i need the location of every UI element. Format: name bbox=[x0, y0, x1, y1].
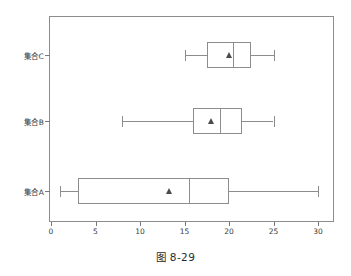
mean-marker-triangle bbox=[208, 118, 214, 124]
box-iqr bbox=[78, 178, 229, 204]
category-axis-label: 集合C bbox=[14, 50, 44, 61]
figure-container: 051015202530集合C集合B集合A 图 8-29 bbox=[0, 0, 351, 276]
x-axis-tick bbox=[51, 222, 52, 226]
category-axis-label: 集合A bbox=[14, 186, 44, 197]
mean-marker-triangle bbox=[166, 188, 172, 194]
whisker-high-cap bbox=[318, 186, 319, 197]
whisker-low-line bbox=[60, 191, 78, 192]
x-axis-tick-label: 20 bbox=[224, 227, 234, 236]
whisker-high-line bbox=[251, 55, 273, 56]
x-axis-tick-label: 0 bbox=[49, 227, 54, 236]
whisker-high-line bbox=[229, 191, 318, 192]
whisker-high-cap bbox=[274, 50, 275, 61]
whisker-low-line bbox=[185, 55, 207, 56]
median-line bbox=[233, 42, 234, 68]
x-axis-tick bbox=[96, 222, 97, 226]
category-axis-tick bbox=[45, 121, 50, 122]
box-iqr bbox=[193, 108, 242, 134]
category-axis-tick bbox=[45, 191, 50, 192]
median-line bbox=[189, 178, 190, 204]
figure-caption: 图 8-29 bbox=[0, 249, 351, 264]
mean-marker-triangle bbox=[226, 52, 232, 58]
x-axis-tick bbox=[140, 222, 141, 226]
whisker-low-cap bbox=[60, 186, 61, 197]
x-axis-tick-label: 15 bbox=[180, 227, 190, 236]
x-axis-tick-label: 5 bbox=[93, 227, 98, 236]
x-axis-tick bbox=[274, 222, 275, 226]
whisker-low-line bbox=[122, 121, 193, 122]
x-axis-tick-label: 30 bbox=[313, 227, 323, 236]
median-line bbox=[220, 108, 221, 134]
category-axis-label: 集合B bbox=[14, 116, 44, 127]
whisker-low-cap bbox=[122, 116, 123, 127]
whisker-low-cap bbox=[185, 50, 186, 61]
x-axis-tick bbox=[318, 222, 319, 226]
x-axis-tick-label: 10 bbox=[135, 227, 145, 236]
x-axis-tick-label: 25 bbox=[269, 227, 279, 236]
whisker-high-line bbox=[242, 121, 273, 122]
x-axis-tick bbox=[229, 222, 230, 226]
category-axis-tick bbox=[45, 55, 50, 56]
whisker-high-cap bbox=[274, 116, 275, 127]
x-axis-tick bbox=[185, 222, 186, 226]
